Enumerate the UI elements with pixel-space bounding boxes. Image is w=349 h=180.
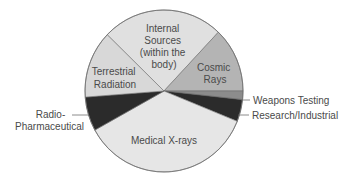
pie-chart-svg: Internal Sources (within the body) Cosmi… [0, 0, 349, 180]
label-medical-xrays: Medical X-rays [131, 135, 197, 146]
pie-chart: Internal Sources (within the body) Cosmi… [0, 0, 349, 180]
label-weapons-testing: Weapons Testing [253, 95, 329, 106]
label-radio-pharmaceutical: Radio- Pharmaceutical [15, 109, 84, 132]
label-research-industrial: Research/Industrial [252, 110, 338, 121]
